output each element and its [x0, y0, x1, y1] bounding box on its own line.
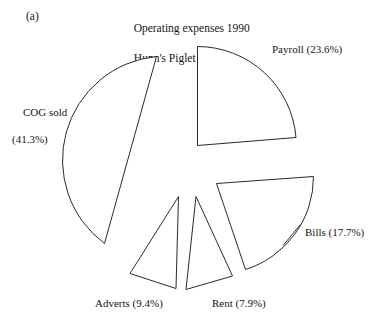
pie-label-payroll: Payroll (23.6%): [272, 43, 342, 56]
pie-label-rent: Rent (7.9%): [212, 297, 266, 310]
pie-label-bills: Bills (17.7%): [305, 226, 364, 239]
pie-label-cog-sold: COG sold (41.3%): [12, 93, 67, 173]
pie-slice-adverts: [130, 197, 179, 289]
figure-panel: (a) Operating expenses 1990 Hunn's Pigle…: [0, 0, 372, 322]
pie-label-cog-sold-name: COG sold: [23, 106, 67, 118]
pie-label-cog-sold-value: (41.3%): [12, 133, 67, 146]
pie-slice-bills: [217, 177, 314, 270]
pie-slice-payroll: [198, 47, 297, 146]
pie-label-adverts: Adverts (9.4%): [95, 297, 163, 310]
pie-slice-cog-sold: [63, 57, 157, 244]
